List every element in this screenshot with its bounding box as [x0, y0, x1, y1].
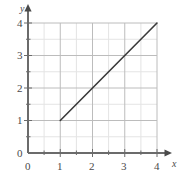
plot-area — [0, 0, 181, 184]
x-tick-label-4: 4 — [154, 161, 160, 172]
y-axis-label: y — [20, 4, 24, 14]
coordinate-graph: y x 4 3 2 1 0 0 1 2 3 4 — [0, 0, 181, 184]
y-tick-label-2: 2 — [17, 83, 23, 94]
y-tick-label-4: 4 — [17, 18, 23, 29]
y-tick-label-1: 1 — [17, 115, 23, 126]
x-tick-label-2: 2 — [89, 161, 95, 172]
x-tick-label-3: 3 — [121, 161, 127, 172]
x-axis-arrow-icon — [165, 149, 173, 156]
y-axis-arrow-icon — [24, 4, 31, 12]
x-axis — [28, 149, 172, 156]
x-axis-label: x — [172, 159, 176, 169]
y-axis — [24, 4, 31, 153]
y-tick-label-0: 0 — [17, 148, 23, 159]
x-tick-label-0: 0 — [25, 161, 31, 172]
y-tick-label-3: 3 — [17, 50, 23, 61]
x-tick-label-1: 1 — [57, 161, 63, 172]
